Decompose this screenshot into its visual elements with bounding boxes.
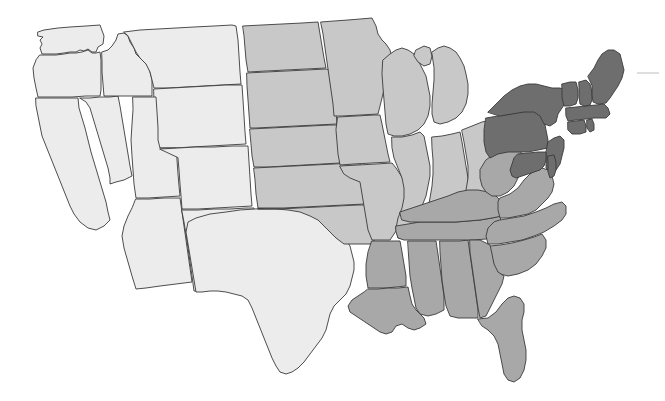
state-ar[interactable]: Arkansas <box>366 241 406 288</box>
state-vt[interactable]: Vermont <box>562 82 578 106</box>
right-edge-mark <box>637 72 659 74</box>
state-wa[interactable]: Washington <box>38 25 104 54</box>
state-az[interactable]: Arizona <box>122 198 192 289</box>
us-choropleth-map: WashingtonOregonCaliforniaNevadaIdahoMon… <box>0 0 665 401</box>
state-nd[interactable]: North Dakota <box>243 22 326 72</box>
state-sd[interactable]: South Dakota <box>247 69 337 128</box>
state-or[interactable]: Oregon <box>33 50 101 97</box>
state-ct[interactable]: Connecticut <box>568 120 586 134</box>
state-de[interactable]: Delaware <box>548 155 556 178</box>
state-nh[interactable]: New Hampshire <box>579 80 592 106</box>
map-canvas: WashingtonOregonCaliforniaNevadaIdahoMon… <box>0 0 665 401</box>
state-ia[interactable]: Iowa <box>336 115 390 165</box>
state-ri[interactable]: Rhode Island <box>587 119 594 132</box>
state-wy[interactable]: Wyoming <box>154 85 246 148</box>
